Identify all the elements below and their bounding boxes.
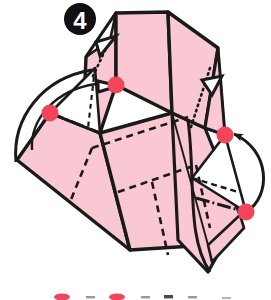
- legend-mark-1: [86, 296, 95, 298]
- origami-illustration: 4: [0, 0, 271, 300]
- step-number-label: 4: [73, 7, 87, 34]
- marker-dot-right: [217, 127, 234, 144]
- legend-mark-3: [164, 295, 173, 298]
- step-number-badge: 4: [64, 3, 96, 35]
- marker-dot-top-left: [108, 77, 125, 94]
- legend-mark-4: [188, 296, 197, 298]
- origami-diagram-figure: 4: [0, 0, 271, 300]
- marker-dot-bottom-right: [238, 204, 255, 221]
- legend-mark-5: [222, 297, 231, 299]
- marker-dot-left: [42, 105, 59, 122]
- legend-mark-2: [141, 296, 150, 298]
